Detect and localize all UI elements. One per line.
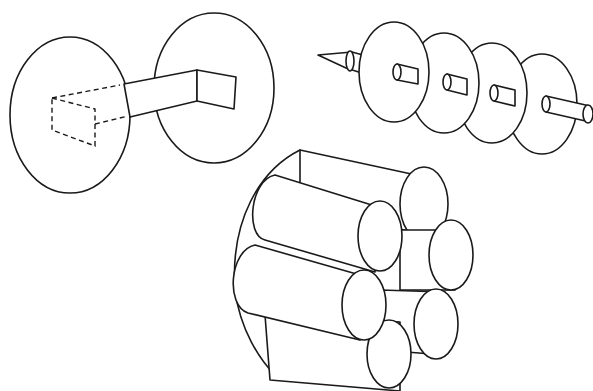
cylinder-top-front [358, 201, 402, 271]
diagram-canvas [0, 0, 593, 391]
skewer-with-disks [318, 22, 593, 154]
two-disks-with-bar [10, 13, 274, 193]
cylinder-right [429, 220, 473, 290]
cylinder-bottom-right [414, 289, 458, 359]
left-disk [10, 37, 130, 193]
cylinder-bundle [233, 150, 473, 391]
cylinder-middle-front [342, 270, 386, 340]
